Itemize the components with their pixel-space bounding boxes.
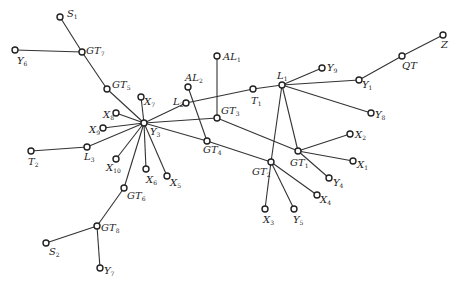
edge-GT3-GT1: [217, 118, 298, 151]
label-GT1: GT1: [290, 158, 309, 169]
edge-GT6-Y3: [124, 123, 144, 188]
label-Y8: Y8: [375, 110, 385, 121]
label-AL2: AL2: [185, 73, 203, 84]
node-S1: [57, 14, 63, 20]
label-Y9: Y9: [327, 63, 337, 74]
edge-T2-L3: [31, 147, 87, 151]
node-Z: [440, 32, 446, 38]
edge-GT7-GT5: [82, 52, 107, 89]
label-GT4: GT4: [203, 145, 222, 156]
label-T2: T2: [28, 157, 39, 168]
node-Y6: [12, 47, 18, 53]
edge-L1-Y1: [282, 80, 359, 85]
node-Y4: [326, 175, 332, 181]
node-X3: [262, 206, 268, 212]
label-X5: X5: [170, 178, 181, 189]
edge-AL2-GT4: [188, 87, 207, 141]
edge-QT-Z: [402, 35, 443, 56]
label-X9: X9: [89, 125, 100, 136]
node-X2: [347, 131, 353, 137]
edge-X6-Y3: [144, 123, 146, 169]
label-GT5: GT5: [112, 80, 131, 91]
label-GT7: GT7: [86, 46, 105, 57]
label-S1: S1: [67, 9, 78, 20]
label-X4: X4: [320, 195, 331, 206]
node-QT: [399, 53, 405, 59]
node-GT5: [104, 86, 110, 92]
label-X8: X8: [103, 110, 114, 121]
node-GT3: [214, 115, 220, 121]
node-Y5: [291, 206, 297, 212]
node-Y9: [319, 65, 325, 71]
edge-Y3-GT3: [144, 118, 217, 123]
edge-L1-Y8: [282, 85, 371, 113]
edge-T1-L1: [253, 85, 282, 89]
label-AL1: AL1: [223, 52, 241, 63]
label-Z: Z: [441, 40, 448, 50]
node-AL2: [185, 84, 191, 90]
label-GT8: GT8: [101, 223, 120, 234]
node-GT2: [268, 159, 274, 165]
node-GT8: [94, 223, 100, 229]
label-L3: L3: [84, 152, 94, 163]
edge-GT8-Y7: [97, 226, 100, 268]
node-L1: [279, 82, 285, 88]
node-X6: [143, 166, 149, 172]
edge-GT1-X2: [298, 134, 350, 151]
label-T1: T1: [251, 96, 262, 107]
edge-S1-GT7: [60, 17, 82, 52]
label-X3: X3: [263, 215, 274, 226]
edge-GT6-GT8: [97, 188, 124, 226]
label-Y4: Y4: [333, 178, 343, 189]
label-Y1: Y1: [362, 80, 372, 91]
label-Y7: Y7: [104, 266, 114, 277]
node-GT1: [295, 148, 301, 154]
edge-Y1-QT: [359, 56, 402, 80]
label-GT6: GT6: [127, 191, 146, 202]
edge-GT8-S2: [46, 226, 97, 243]
label-GT2: GT2: [252, 167, 271, 178]
edge-X8-Y3: [116, 113, 144, 123]
node-Y8: [368, 110, 374, 116]
edge-GT2-Y5: [271, 162, 294, 209]
node-Y7: [97, 265, 103, 271]
node-AL1: [214, 53, 220, 59]
label-L2: L2: [173, 97, 183, 108]
label-Y6: Y6: [17, 56, 27, 67]
label-QT: QT: [402, 61, 417, 71]
label-Y3: Y3: [150, 127, 160, 138]
edge-L1-GT2: [271, 85, 282, 162]
edge-L1-GT1: [282, 85, 298, 151]
label-X2: X2: [355, 130, 366, 141]
label-S2: S2: [49, 247, 60, 258]
edge-Y6-GT7: [15, 50, 82, 52]
label-X6: X6: [146, 175, 157, 186]
node-L3: [84, 144, 90, 150]
node-X9: [100, 125, 106, 131]
graph-svg: [0, 0, 462, 287]
node-Y3: [141, 120, 147, 126]
edge-L2-T1: [186, 89, 253, 103]
label-X1: X1: [357, 160, 368, 171]
label-X7: X7: [144, 97, 155, 108]
label-Y5: Y5: [293, 215, 303, 226]
network-diagram: S1GT7Y6GT5X7X8Y3X9L3T2X10X6X5GT6GT8S2Y7A…: [0, 0, 462, 287]
node-GT7: [79, 49, 85, 55]
node-X10: [113, 156, 119, 162]
node-L2: [183, 100, 189, 106]
label-X10: X10: [106, 163, 121, 174]
label-L1: L1: [277, 71, 287, 82]
node-T1: [250, 86, 256, 92]
label-GT3: GT3: [221, 106, 240, 117]
node-T2: [28, 148, 34, 154]
node-X1: [350, 158, 356, 164]
